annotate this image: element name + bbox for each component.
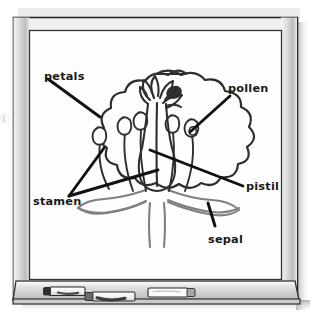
labels-layer: petals pollen pistil sepal stamen (0, 0, 313, 315)
label-sepal: sepal (208, 233, 243, 246)
label-stamen: stamen (33, 195, 81, 208)
label-pistil: pistil (246, 180, 279, 193)
label-petals: petals (44, 70, 85, 83)
label-pollen: pollen (228, 82, 269, 95)
whiteboard-scene: petals pollen pistil sepal stamen (0, 0, 313, 315)
